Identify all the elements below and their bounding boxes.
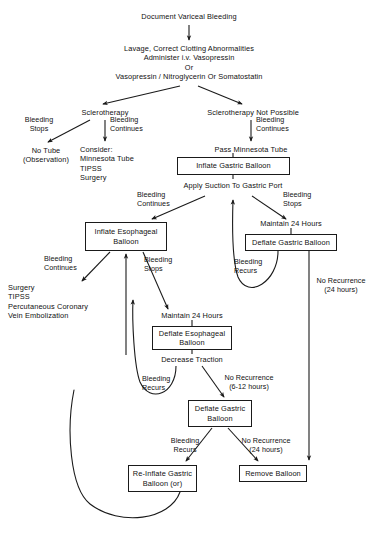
edge-label-bleeding-continues-esophageal: Bleeding Continues: [44, 255, 102, 273]
node-consider-options: Consider: Minnesota Tube TIPSS Surgery: [80, 145, 186, 183]
node-inflate-esophageal-balloon: Inflate Esophageal Balloon: [85, 222, 167, 251]
flowchart-canvas: Document Variceal Bleeding Lavage, Corre…: [0, 0, 379, 536]
edge-label-bleeding-stops-sclerotherapy: Bleeding Stops: [12, 116, 66, 134]
node-inflate-gastric-balloon: Inflate Gastric Balloon: [177, 157, 290, 175]
node-maintain-24-hours-gastric: Maintain 24 Hours: [240, 219, 342, 228]
node-document: Document Variceal Bleeding: [100, 12, 278, 21]
edge-label-bleeding-continues-not-possible: Bleeding Continues: [256, 116, 312, 134]
node-pass-minnesota-tube: Pass Minnesota Tube: [186, 145, 316, 154]
node-maintain-24-hours-esophageal: Maintain 24 Hours: [141, 311, 243, 320]
node-no-tube-observation: No Tube (Observation): [5, 146, 87, 165]
edge-label-bleeding-recurs-gastric-first: Bleeding Recurs: [234, 258, 284, 276]
edge-label-bleeding-stops-esophageal: Bleeding Stops: [144, 256, 196, 274]
node-deflate-gastric-balloon-first: Deflate Gastric Balloon: [245, 234, 337, 251]
node-re-inflate-gastric-balloon: Re-Inflate Gastric Balloon (or): [128, 465, 197, 492]
node-salvage-therapy-options: Surgery TIPSS Percutaneous Coronary Vein…: [8, 283, 126, 321]
edge-label-bleeding-continues-sclerotherapy: Bleeding Continues: [110, 116, 164, 134]
node-deflate-gastric-balloon-second: Deflate Gastric Balloon: [188, 400, 252, 427]
edge-label-bleeding-recurs-esophageal: Bleeding Recurs: [142, 375, 192, 393]
node-decrease-traction: Decrease Traction: [146, 355, 238, 364]
edge-label-bleeding-recurs-gastric-second: Bleeding Recurs: [159, 437, 211, 455]
edge-label-no-recurrence-24-hours-upper: No Recurrence (24 hours): [304, 277, 378, 295]
edge-label-bleeding-continues-suction: Bleeding Continues: [137, 191, 193, 209]
edge-label-bleeding-stops-suction: Bleeding Stops: [283, 191, 335, 209]
node-remove-balloon: Remove Balloon: [239, 465, 307, 482]
edge-label-no-recurrence-6-12-hours: No Recurrence (6-12 hours): [211, 374, 287, 392]
node-deflate-esophageal-balloon: Deflate Esophageal Balloon: [152, 326, 232, 350]
edge-label-no-recurrence-24-hours-lower: No Recurrence (24 hours): [228, 437, 304, 455]
node-apply-suction-gastric-port: Apply Suction To Gastric Port: [150, 181, 316, 190]
node-initial-therapy: Lavage, Correct Clotting Abnormalities A…: [26, 44, 352, 82]
